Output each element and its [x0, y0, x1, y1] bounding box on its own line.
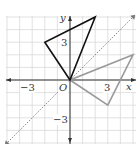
- coordinate-plane: y x O −3 3 3 −3: [0, 0, 140, 144]
- y-tick-label-neg3: −3: [53, 114, 68, 125]
- y-axis-label: y: [59, 12, 66, 23]
- x-tick-label-neg3: −3: [20, 82, 35, 93]
- x-axis-arrow-right-icon: [131, 78, 136, 82]
- origin-label: O: [59, 82, 67, 93]
- x-axis-label: x: [126, 81, 132, 92]
- y-tick-label-3: 3: [61, 37, 67, 48]
- x-tick-label-3: 3: [104, 82, 110, 93]
- y-axis-arrow-down-icon: [68, 138, 72, 143]
